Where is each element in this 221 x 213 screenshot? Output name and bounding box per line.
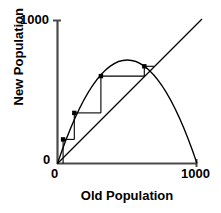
chart-figure: New Population Old Population 1000 0 0 1…: [0, 0, 221, 213]
identity-line: [58, 19, 203, 164]
chart-canvas: [0, 0, 221, 213]
y-tick-label-0: 0: [43, 152, 50, 167]
x-tick-label-1000: 1000: [181, 166, 210, 181]
x-axis-label: Old Population: [56, 188, 198, 203]
logistic-curve: [58, 60, 198, 164]
iterate-marker: [61, 137, 65, 141]
iterate-marker: [99, 74, 103, 78]
x-tick-label-0: 0: [51, 166, 58, 181]
iterate-marker: [142, 64, 146, 68]
y-axis-label: New Population: [11, 14, 26, 106]
y-tick-label-1000: 1000: [20, 12, 49, 27]
iterate-marker: [72, 111, 76, 115]
